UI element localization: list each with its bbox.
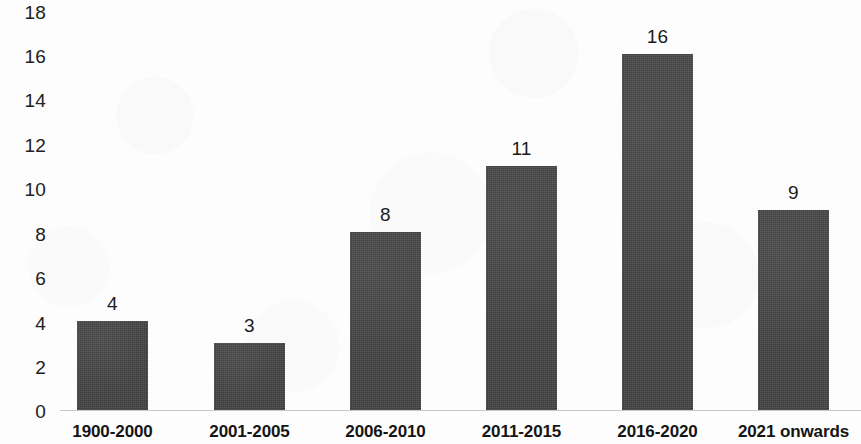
bar[interactable] xyxy=(214,343,285,410)
bar-value-label: 16 xyxy=(600,27,715,46)
bar-value-label: 9 xyxy=(736,183,851,202)
bar-value-label: 11 xyxy=(464,139,579,158)
category-label: 2001-2005 xyxy=(180,423,319,441)
bar-group-1900-2000: 4 1900-2000 xyxy=(77,0,148,444)
plot-area: 4 1900-2000 3 2001-2005 8 2006-2010 11 2… xyxy=(0,0,861,444)
bar[interactable] xyxy=(758,210,829,410)
bar-value-label: 3 xyxy=(192,316,307,335)
category-label: 2021 onwards xyxy=(724,423,861,441)
category-label: 2016-2020 xyxy=(588,423,727,441)
category-label: 2006-2010 xyxy=(316,423,455,441)
bar-group-2011-2015: 11 2011-2015 xyxy=(486,0,557,444)
bar-group-2021-onwards: 9 2021 onwards xyxy=(758,0,829,444)
bar-chart: 18 16 14 12 10 8 6 4 2 0 4 1900-2000 3 2… xyxy=(0,0,861,444)
category-label: 2011-2015 xyxy=(452,423,591,441)
bar-group-2001-2005: 3 2001-2005 xyxy=(214,0,285,444)
bar[interactable] xyxy=(486,166,557,410)
bar[interactable] xyxy=(622,54,693,410)
category-label: 1900-2000 xyxy=(43,423,182,441)
bar-group-2016-2020: 16 2016-2020 xyxy=(622,0,693,444)
bar-group-2006-2010: 8 2006-2010 xyxy=(350,0,421,444)
bar-value-label: 4 xyxy=(55,294,170,313)
bar-value-label: 8 xyxy=(328,205,443,224)
bar[interactable] xyxy=(77,321,148,410)
bar[interactable] xyxy=(350,232,421,410)
